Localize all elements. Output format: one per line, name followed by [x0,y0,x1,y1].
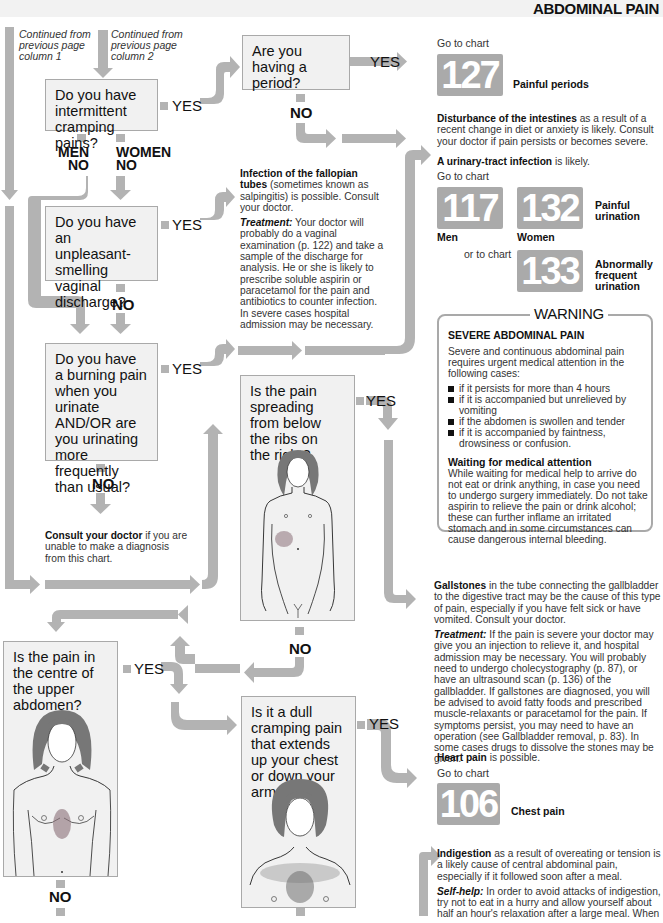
warning-item: if it persists for more than 4 hours [448,383,648,394]
fallopian-treatment-text: Your doctor will probably do a vaginal e… [240,217,383,330]
goto-chart-text: Go to chart [437,170,489,182]
women-label: Women [517,232,555,243]
goto-chart-text: Go to chart [437,37,489,49]
no-label: NO [289,640,312,657]
men-label: Men [437,232,458,243]
female-figure-right-rib-pain-illustration [258,444,338,622]
chart-127-button[interactable]: 127 [437,54,503,96]
chest-pain-label: Chest pain [511,806,565,817]
no-text: NO [116,157,137,173]
continued-column-2: Continued from previous page column 2 [111,29,191,62]
yes-label: YES [134,660,164,677]
no-text: NO [58,157,89,173]
urinary-outcome: A urinary-tract infection is likely. [437,156,659,167]
warning-intro: Severe and continuous abdominal pain req… [448,346,648,379]
waiting-heading: Waiting for medical attention [448,457,648,468]
no-label: NO [92,475,115,492]
consult-doctor-outcome: Consult your doctor if you are unable to… [45,530,190,564]
question-having-period[interactable]: Are you having a period? [242,35,350,90]
no-label: NO [112,296,135,313]
women-no-label: WOMENNO [116,146,176,172]
urinary-heading: A urinary-tract infection [437,156,552,167]
chart-133-button[interactable]: 133 [517,250,583,292]
fallopian-outcome: Infection of the fallopian tubes (someti… [240,168,385,334]
warning-item: if the abdomen is swollen and tender [448,416,648,427]
question-vaginal-discharge[interactable]: Do you have an unpleasant-smelling vagin… [45,206,158,281]
question-burning-urination[interactable]: Do you have a burning pain when you urin… [45,343,158,461]
indigestion-heading: Indigestion [437,848,491,859]
gallstones-heading: Gallstones [434,580,486,591]
painful-periods-label: Painful periods [513,79,589,90]
gallstones-outcome: Gallstones in the tube connecting the ga… [434,580,661,769]
heart-pain-outcome: Heart pain is possible. [437,752,657,763]
warning-body: SEVERE ABDOMINAL PAIN Severe and continu… [448,330,648,545]
yes-label: YES [172,97,202,114]
yes-label: YES [172,360,202,377]
intestines-heading: Disturbance of the intestines [437,113,577,124]
heart-heading: Heart pain [437,752,487,763]
abnormally-frequent-urination-label: Abnormally frequent urination [595,259,659,292]
yes-label: YES [366,392,396,409]
urinary-text: is likely. [552,156,590,167]
gallstones-treatment-text: If the pain is severe your doctor may gi… [434,629,654,764]
treatment-label: Treatment: [240,217,292,228]
yes-label: YES [172,216,202,233]
no-label: NO [290,104,313,121]
continued-column-1: Continued from previous page column 1 [19,29,99,62]
painful-urination-label: Painful urination [595,200,655,222]
no-label: NO [49,888,72,905]
warning-item: if it is accompanied by faintness, drows… [448,427,648,449]
consult-heading: Consult your doctor [45,530,142,541]
warning-item: if it is accompanied but unrelieved by v… [448,394,648,416]
waiting-text: While waiting for medical help to arrive… [448,468,648,545]
female-figure-chest-pain-illustration [244,775,354,907]
warning-heading: SEVERE ABDOMINAL PAIN [448,330,648,341]
yes-label: YES [370,53,400,70]
self-help-label: Self-help: [437,886,483,897]
indigestion-outcome: Indigestion as a result of overeating or… [437,848,661,923]
question-intermittent-cramping[interactable]: Do you have intermittent cramping pains? [45,79,158,131]
chart-117-button[interactable]: 117 [437,187,503,229]
warning-title: WARNING [530,305,608,322]
or-to-chart-text: or to chart [464,248,511,260]
treatment-label: Treatment: [434,629,486,640]
chart-106-button[interactable]: 106 [437,783,500,825]
warning-list: if it persists for more than 4 hours if … [448,383,648,449]
female-figure-upper-abdomen-pain-illustration [6,700,116,876]
goto-chart-text: Go to chart [437,767,489,779]
men-no-label: MENNO [58,146,98,172]
intestines-outcome: Disturbance of the intestines as a resul… [437,113,659,147]
heart-text: is possible. [487,752,540,763]
chart-132-button[interactable]: 132 [517,187,583,229]
yes-label: YES [369,715,399,732]
